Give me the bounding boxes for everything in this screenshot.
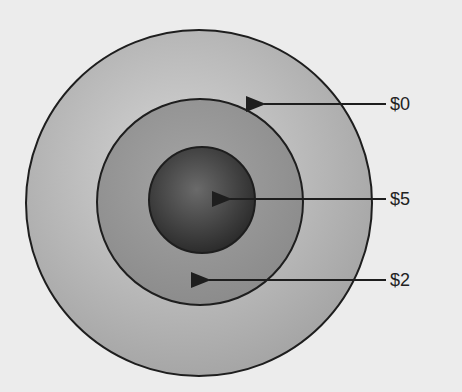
- label-middle: $2: [390, 270, 410, 290]
- label-outer: $0: [390, 94, 410, 114]
- label-inner: $5: [390, 189, 410, 209]
